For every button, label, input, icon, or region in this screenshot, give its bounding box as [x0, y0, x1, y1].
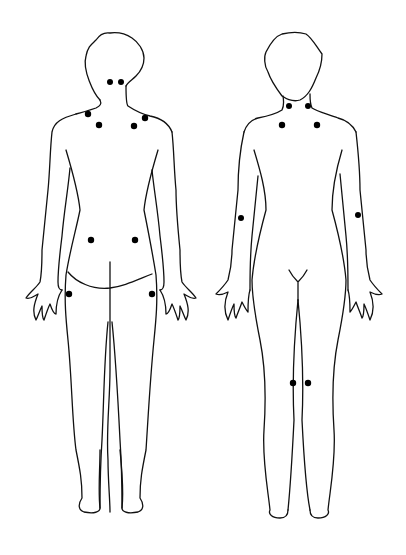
- front-groin: [289, 270, 307, 300]
- front-head-outline: [265, 33, 322, 101]
- back-right-arm: [160, 132, 196, 320]
- point-lateral-epicondyle-right: [355, 212, 361, 218]
- front-left-torso: [252, 150, 288, 518]
- point-trapezius-right: [142, 115, 148, 121]
- point-occiput-left: [107, 79, 113, 85]
- point-second-rib-right: [314, 122, 320, 128]
- point-supraspinatus-left: [96, 122, 102, 128]
- front-right-arm: [348, 132, 382, 320]
- back-left-arm: [26, 114, 76, 320]
- point-occiput-right: [118, 79, 124, 85]
- point-gluteal-right: [132, 237, 138, 243]
- point-knee-left: [290, 380, 296, 386]
- point-lateral-epicondyle-left: [238, 215, 244, 221]
- front-inner-leg-right: [298, 300, 310, 510]
- point-trapezius-left: [85, 111, 91, 117]
- point-gluteal-left: [88, 237, 94, 243]
- point-greater-trochanter-right: [149, 291, 155, 297]
- point-second-rib-left: [279, 122, 285, 128]
- front-left-inner-arm: [250, 176, 258, 290]
- front-right-inner-arm: [340, 174, 348, 290]
- point-supraspinatus-right: [131, 123, 137, 129]
- front-right-torso: [310, 150, 346, 518]
- front-left-arm: [216, 132, 250, 320]
- back-inner-leg-right: [112, 322, 122, 508]
- back-view-figure: [26, 33, 196, 513]
- back-inner-leg-left: [100, 322, 108, 508]
- point-low-cervical-right: [305, 103, 311, 109]
- point-low-cervical-left: [286, 103, 292, 109]
- back-right-torso: [120, 150, 158, 513]
- back-head-outline: [85, 33, 144, 100]
- front-neck-left: [244, 96, 284, 132]
- front-view-figure: [216, 33, 382, 519]
- point-greater-trochanter-left: [66, 291, 72, 297]
- back-left-torso: [65, 150, 100, 513]
- back-right-inner-arm: [152, 170, 164, 290]
- body-diagram: [0, 0, 406, 555]
- back-midline: [107, 262, 110, 512]
- front-inner-leg-left: [288, 300, 298, 510]
- point-knee-right: [305, 380, 311, 386]
- front-view-points: [238, 103, 361, 386]
